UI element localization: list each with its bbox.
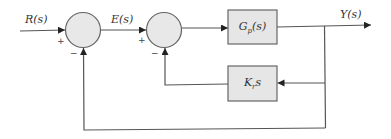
outer-feedback-line: [84, 48, 326, 130]
rate-label-main: K: [244, 76, 252, 89]
output-branch-line: [325, 26, 326, 128]
plant-block-label: Gp(s): [228, 21, 277, 35]
error-signal-label: E(s): [111, 14, 133, 25]
rate-label-tail: s: [255, 76, 261, 89]
sum1-minus-sign: −: [70, 49, 78, 58]
output-signal-label: Y(s): [340, 9, 362, 20]
input-signal-line: [20, 30, 65, 31]
summing-junction-1: [66, 13, 101, 48]
plant-label-main: G: [239, 20, 248, 33]
inner-feedback-line: [165, 48, 228, 85]
plant-label-tail: (s): [252, 20, 266, 33]
block-diagram: [0, 0, 391, 139]
input-signal-label: R(s): [25, 14, 48, 25]
sum1-plus-sign: +: [57, 37, 65, 46]
summing-junction-2: [147, 13, 182, 48]
sum2-minus-sign: −: [151, 49, 159, 58]
rate-feedback-block-label: Krs: [228, 77, 277, 91]
sum2-plus-sign: +: [138, 36, 146, 45]
